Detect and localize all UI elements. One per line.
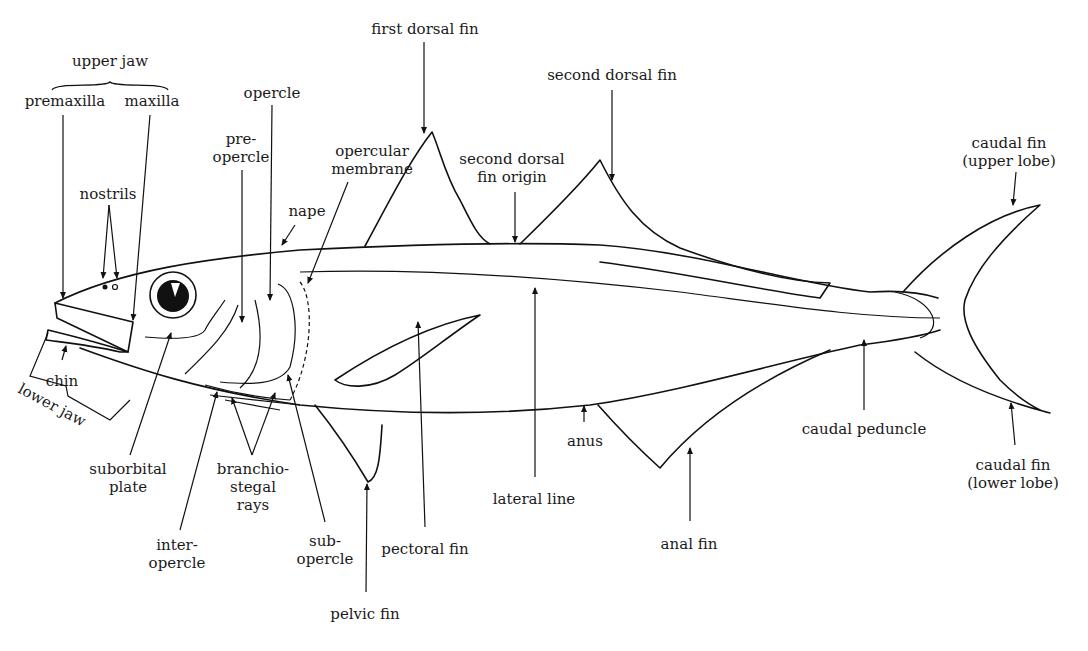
label-opercular-membrane: opercular membrane [331, 142, 413, 178]
label-sub-opercle: sub- opercle [297, 532, 354, 568]
label-inter-opercle: inter- opercle [149, 536, 206, 572]
label-anal-fin: anal fin [661, 535, 718, 553]
label-nape: nape [288, 202, 325, 220]
label-opercle: opercle [244, 84, 301, 102]
label-premaxilla: premaxilla [25, 92, 106, 110]
label-suborbital-plate: suborbital plate [89, 460, 166, 496]
label-maxilla: maxilla [125, 92, 180, 110]
label-caudal-fin-upper-lobe: caudal fin (upper lobe) [962, 134, 1056, 170]
label-caudal-fin-lower-lobe: caudal fin (lower lobe) [967, 456, 1059, 492]
label-branchiostegal-rays: branchio- stegal rays [217, 460, 289, 514]
label-caudal-peduncle: caudal peduncle [802, 420, 927, 438]
label-pointers [62, 42, 1016, 592]
label-pelvic-fin: pelvic fin [330, 605, 399, 623]
label-pectoral-fin: pectoral fin [381, 540, 468, 558]
fish-anatomy-diagram: upper jaw premaxilla maxilla nostrils op… [0, 0, 1088, 651]
label-second-dorsal-fin: second dorsal fin [547, 66, 677, 84]
label-second-dorsal-fin-origin: second dorsal fin origin [459, 150, 564, 186]
label-chin: chin [46, 372, 79, 390]
label-preopercle: pre- opercle [213, 130, 270, 166]
label-anus: anus [567, 432, 603, 450]
label-lateral-line: lateral line [493, 490, 575, 508]
label-first-dorsal-fin: first dorsal fin [371, 20, 478, 38]
label-nostrils: nostrils [80, 185, 137, 203]
label-upper-jaw: upper jaw [72, 52, 148, 70]
